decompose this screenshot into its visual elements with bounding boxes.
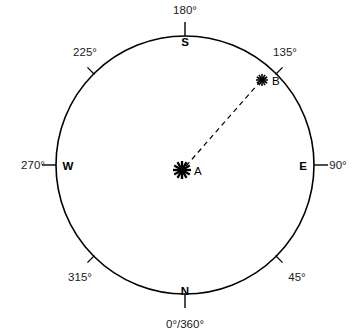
tick-diagonal-45: [276, 256, 283, 263]
tick-diagonal-225: [87, 67, 94, 74]
cardinal-label-S: S: [181, 36, 189, 48]
tick-diagonal-315: [87, 256, 94, 263]
compass-azimuth-figure: 180°135°90°45°0°/360°315°270°225°SENWAB: [0, 0, 363, 333]
compass-diagram-canvas: 180°135°90°45°0°/360°315°270°225°SENWAB: [0, 0, 363, 333]
starburst-core: [260, 78, 265, 83]
degree-label-0: 0°/360°: [166, 318, 204, 330]
degree-label-315: 315°: [68, 271, 92, 283]
degree-label-225: 225°: [73, 46, 97, 58]
degree-label-270: 270°: [21, 159, 45, 171]
cardinal-label-W: W: [63, 160, 74, 172]
connector-line-A-to-B: [186, 83, 259, 166]
starburst-core: [179, 167, 186, 174]
degree-label-45: 45°: [288, 271, 305, 283]
degree-label-135: 135°: [273, 46, 297, 58]
point-label-A: A: [194, 165, 202, 177]
point-label-B: B: [272, 75, 280, 87]
tick-diagonal-135: [276, 67, 283, 74]
cardinal-label-E: E: [299, 160, 307, 172]
degree-label-90: 90°: [329, 159, 346, 171]
cardinal-label-N: N: [181, 285, 189, 297]
degree-label-180: 180°: [173, 4, 197, 16]
